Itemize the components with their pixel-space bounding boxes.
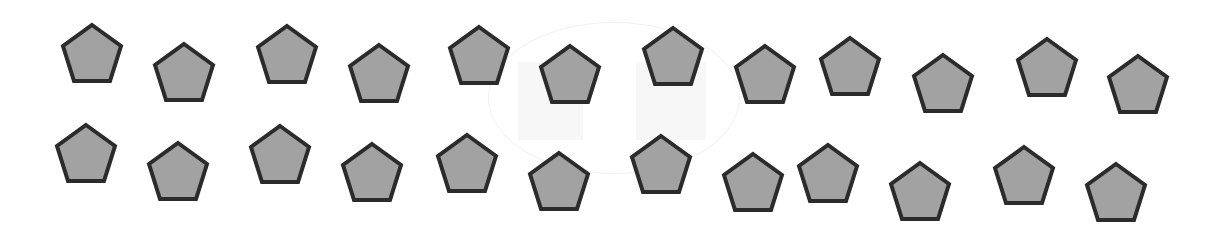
pentagon-shape	[992, 144, 1056, 207]
pentagon-icon	[146, 140, 210, 203]
pentagon-icon	[641, 25, 705, 88]
pentagon-shape	[1106, 53, 1170, 116]
pentagon-icon	[347, 42, 411, 105]
pentagon-icon	[538, 43, 602, 106]
pentagon-icon	[629, 133, 693, 196]
pentagon-icon	[1015, 36, 1079, 99]
pentagon-shape	[248, 123, 312, 186]
pentagon-icon	[248, 123, 312, 186]
pentagon-shape	[733, 43, 797, 106]
pentagon-shape	[54, 122, 118, 185]
pentagon-icon	[60, 22, 124, 85]
pentagon-icon	[888, 160, 952, 223]
pentagon-icon	[527, 150, 591, 213]
pentagon-icon	[796, 142, 860, 205]
pentagon-icon	[733, 43, 797, 106]
pentagon-shape	[721, 151, 785, 214]
pentagon-icon	[992, 144, 1056, 207]
pentagon-shape	[796, 142, 860, 205]
pentagon-icon	[721, 151, 785, 214]
pentagon-icon	[1084, 161, 1148, 224]
pentagon-shape	[818, 35, 882, 98]
pentagon-icon	[447, 24, 511, 87]
pentagon-shape	[527, 150, 591, 213]
pentagon-shape	[629, 133, 693, 196]
pentagon-canvas	[0, 0, 1205, 229]
pentagon-shape	[447, 24, 511, 87]
pentagon-shape	[538, 43, 602, 106]
pentagon-shape	[1084, 161, 1148, 224]
pentagon-icon	[255, 23, 319, 86]
pentagon-icon	[818, 35, 882, 98]
pentagon-shape	[641, 25, 705, 88]
pentagon-icon	[1106, 53, 1170, 116]
pentagon-shape	[435, 132, 499, 195]
pentagon-icon	[435, 132, 499, 195]
pentagon-shape	[60, 22, 124, 85]
pentagon-shape	[146, 140, 210, 203]
pentagon-shape	[888, 160, 952, 223]
pentagon-shape	[347, 42, 411, 105]
pentagon-icon	[54, 122, 118, 185]
pentagon-icon	[152, 41, 216, 104]
pentagon-icon	[340, 141, 404, 204]
pentagon-shape	[255, 23, 319, 86]
pentagon-shape	[152, 41, 216, 104]
pentagon-icon	[911, 52, 975, 115]
pentagon-shape	[911, 52, 975, 115]
pentagon-shape	[1015, 36, 1079, 99]
pentagon-shape	[340, 141, 404, 204]
